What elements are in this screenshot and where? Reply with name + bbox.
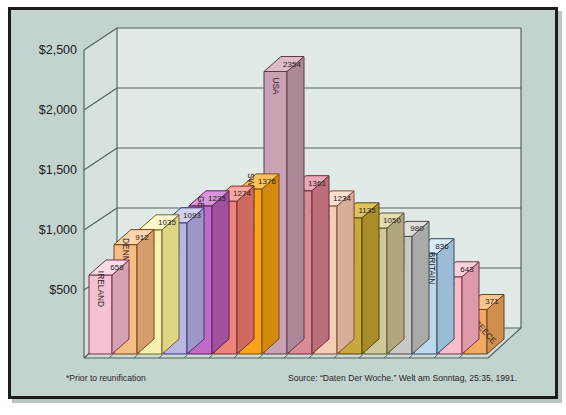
bar-value-sweden: 1361 [308, 179, 326, 188]
bar-value-japan: 1035 [158, 218, 176, 227]
bar-value-usa: 2354 [283, 60, 301, 69]
bar-value-great-britain: 836 [435, 242, 449, 251]
bar-value-ireland: 658 [110, 263, 124, 272]
bar-label-usa: USA [271, 77, 281, 95]
y-tick-1500: $1,500 [39, 163, 77, 177]
y-axis-tick-labels: $2,500 $2,000 $1,500 $1,000 $500 [39, 43, 77, 297]
footnote-reunification: *Prior to reunification [66, 373, 146, 383]
y-tick-2500: $2,500 [39, 43, 77, 57]
bar-value-italy: 1050 [383, 216, 401, 225]
y-tick-2000: $2,000 [39, 103, 77, 117]
bar-value-norway: 1234 [333, 194, 351, 203]
bar-value-netherlands: 1135 [358, 206, 376, 215]
bar-ireland[interactable]: 658 IRELAND [89, 260, 129, 354]
chart-frame: $2,500 $2,000 $1,500 $1,000 $500 [8, 7, 558, 399]
bar-value-spain: 643 [460, 265, 474, 274]
bar-chart-3d: $2,500 $2,000 $1,500 $1,000 $500 [11, 10, 561, 402]
bar-value-france: 1274 [233, 189, 251, 198]
bar-value-switzerland: 1376 [258, 177, 276, 186]
bar-value-denmark: 912 [135, 233, 149, 242]
bar-value-austria: 1093 [183, 211, 201, 220]
bar-value-greece: 371 [485, 297, 499, 306]
y-tick-1000: $1,000 [39, 223, 77, 237]
chart-page: $2,500 $2,000 $1,500 $1,000 $500 [0, 0, 566, 415]
bar-label-ireland: IRELAND [96, 271, 106, 307]
y-tick-500: $500 [49, 283, 77, 297]
bar-value-belgium: 980 [410, 224, 424, 233]
bar-value-germany: 1235 [208, 194, 226, 203]
source-citation: Source: “Daten Der Woche.” Welt am Sonnt… [288, 373, 517, 383]
